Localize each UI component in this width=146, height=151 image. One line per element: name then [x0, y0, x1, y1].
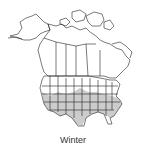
alaska-outline: [10, 14, 50, 40]
canada-outline: [38, 24, 130, 78]
range-map: [0, 0, 146, 130]
land-outlines: [8, 10, 132, 78]
season-caption: Winter: [0, 135, 146, 145]
